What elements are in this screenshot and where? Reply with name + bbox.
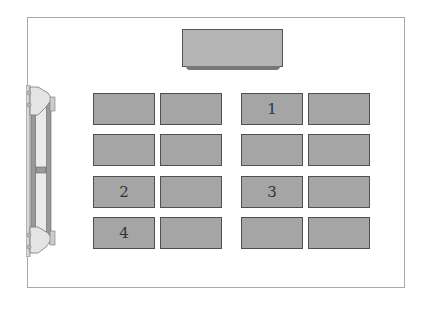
student-desk [241,217,303,249]
student-desk: 3 [241,176,303,208]
student-desk [93,134,155,166]
student-desk [241,134,303,166]
teacher-desk [182,29,283,67]
teacher-desk-shadow [186,66,280,70]
student-desk: 1 [241,93,303,125]
student-desk [308,134,370,166]
student-desk: 4 [93,217,155,249]
student-desk [160,176,222,208]
student-desk [160,93,222,125]
student-desk: 2 [93,176,155,208]
student-desk [308,176,370,208]
student-desk [160,134,222,166]
student-desk [160,217,222,249]
student-desk [308,217,370,249]
student-desk [93,93,155,125]
student-desk [308,93,370,125]
double-door-icon [26,85,58,257]
